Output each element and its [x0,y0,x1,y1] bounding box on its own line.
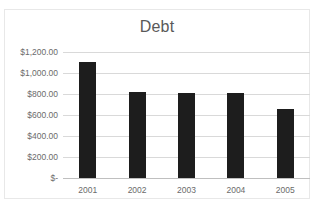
y-axis-tick-label: $1,200.00 [20,47,58,57]
bar [178,93,195,178]
chart-title: Debt [5,18,309,36]
bar [277,109,294,178]
x-axis-tick-label: 2002 [113,178,161,195]
plot-area: $-$200.00$400.00$600.00$800.00$1,000.00$… [63,52,310,178]
y-axis-tick-label: $600.00 [27,110,58,120]
y-axis-tick-label: $400.00 [27,131,58,141]
y-axis-tick-label: $- [50,173,58,183]
y-axis-tick-label: $200.00 [27,152,58,162]
x-axis-tick-label: 2004 [212,178,260,195]
bar [79,62,96,178]
bar [129,92,146,178]
x-axis-tick-label: 2003 [163,178,211,195]
x-axis-tick-label: 2005 [261,178,309,195]
bar-series [63,52,310,178]
bar [227,93,244,178]
chart-frame: Debt $-$200.00$400.00$600.00$800.00$1,00… [4,9,310,199]
y-axis-tick-label: $1,000.00 [20,68,58,78]
x-axis-tick-label: 2001 [64,178,112,195]
y-axis-tick-label: $800.00 [27,89,58,99]
